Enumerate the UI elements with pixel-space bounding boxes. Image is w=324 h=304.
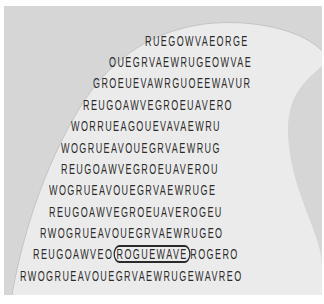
grid-row-1: RUEGOWVAEORGE <box>145 33 249 49</box>
grid-row-9: REUGOAWVEGROEUAVEROGEU <box>49 204 223 220</box>
grid-row-7: REUGOAWVEGROEUAVEROU <box>61 161 219 177</box>
grid-row-6: WOGRUEAVOUEGRVAEWRUG <box>61 140 221 156</box>
grid-row-3: GROEUEVAWRGUOEEWAVUR <box>93 75 251 91</box>
grid-row-2: OUEGRVAEWRUGEOWVAE <box>109 54 252 70</box>
grid-row-12: RWOGRUEAVOUEGRVAEWRUGEWAVREO <box>20 268 243 284</box>
grid-row-4: REUGOAWVEGROEUAVERO <box>83 97 233 113</box>
letter-grid: RUEGOWVAEORGE OUEGRVAEWRUGEOWVAE GROEUEV… <box>4 6 322 295</box>
grid-row-5: WORRUEAGOUEVAVAEWRU <box>71 118 221 134</box>
grid-row-8: WOGRUEAVOUEGRVAEWRUGE <box>49 182 216 198</box>
found-word-circle[interactable]: ROGUEWAVE <box>113 245 190 263</box>
puzzle-frame: RUEGOWVAEORGE OUEGRVAEWRUGEOWVAE GROEUEV… <box>4 6 322 295</box>
row-11-prefix: REUGOAWVEO <box>33 246 113 262</box>
row-11-suffix: ROGERO <box>190 246 239 262</box>
grid-row-10: RWOGRUEAVOUEGRVAEWRUGEO <box>40 225 223 241</box>
grid-row-11: REUGOAWVEOROGUEWAVEROGERO <box>33 246 239 262</box>
